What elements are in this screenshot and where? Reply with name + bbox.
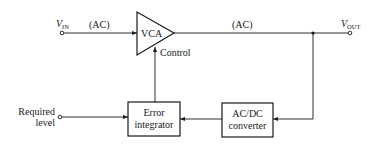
integrator-label-line1: Error	[143, 107, 165, 118]
acdc-label-line2: converter	[229, 120, 267, 131]
feedback-wire	[273, 33, 313, 119]
output-terminal	[348, 31, 352, 35]
reference-label-line1: Required	[18, 106, 55, 117]
reference-label-line2: level	[36, 117, 56, 128]
acdc-label-line1: AC/DC	[232, 108, 263, 119]
acdc-converter-block: AC/DC converter	[222, 103, 273, 137]
output-signal-label: (AC)	[232, 19, 253, 31]
input-terminal	[60, 31, 64, 35]
input-signal-label: (AC)	[89, 19, 110, 31]
control-label: Control	[160, 47, 191, 58]
vca-label: VCA	[141, 28, 163, 39]
error-integrator-block: Error integrator	[128, 102, 180, 136]
integrator-label-line2: integrator	[135, 119, 175, 130]
vout-label: VOUT	[341, 18, 360, 30]
block-diagram: VIN (AC) VCA (AC) VOUT AC/DC converter E…	[0, 0, 377, 150]
reference-terminal	[58, 115, 62, 119]
vin-label: VIN	[56, 18, 69, 30]
